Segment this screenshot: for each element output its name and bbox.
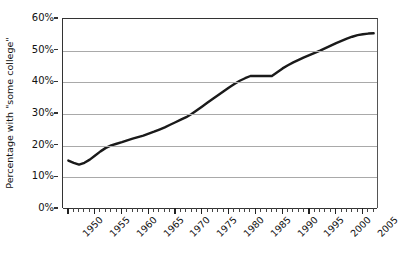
y-tick-label-10%: 10% — [18, 170, 54, 181]
x-tick-1979 — [223, 208, 224, 212]
x-tick-label-1980: 1980 — [241, 214, 266, 239]
x-axis-tick-labels: 1950195519601965197019751980198519901995… — [62, 214, 378, 260]
x-tick-2004 — [357, 208, 358, 212]
x-tick-1991 — [287, 208, 288, 212]
x-tick-1974 — [196, 208, 197, 212]
x-tick-1983 — [244, 208, 245, 212]
x-tick-1992 — [292, 208, 293, 212]
y-tick-mark-60% — [54, 17, 58, 18]
x-tick-1967 — [158, 208, 159, 212]
x-tick-1993 — [298, 208, 299, 212]
x-tick-label-1965: 1965 — [161, 214, 186, 239]
x-tick-1968 — [164, 208, 165, 212]
y-axis-tick-labels: 0%10%20%30%40%50%60% — [20, 18, 58, 208]
x-tick-1957 — [105, 208, 106, 212]
x-tick-1997 — [319, 208, 320, 212]
gridline-10% — [63, 177, 377, 178]
x-tick-1989 — [276, 208, 277, 212]
y-tick-mark-10% — [54, 176, 58, 177]
x-tick-1998 — [324, 208, 325, 212]
x-tick-label-1995: 1995 — [321, 214, 346, 239]
y-axis-title-container: Percentage with "some college" — [2, 18, 16, 208]
x-tick-1969 — [169, 208, 170, 212]
gridline-30% — [63, 114, 377, 115]
x-tick-1964 — [142, 208, 143, 212]
x-tick-1988 — [271, 208, 272, 212]
y-tick-mark-30% — [54, 112, 58, 113]
x-tick-1961 — [126, 208, 127, 212]
x-tick-1987 — [266, 208, 267, 212]
y-tick-label-40%: 40% — [18, 75, 54, 86]
x-tick-1972 — [185, 208, 186, 212]
y-tick-label-60%: 60% — [18, 12, 54, 23]
x-tick-1951 — [73, 208, 74, 212]
x-tick-label-1960: 1960 — [134, 214, 159, 239]
x-tick-2002 — [346, 208, 347, 212]
x-tick-1962 — [132, 208, 133, 212]
plot-area — [62, 18, 378, 208]
y-axis-title: Percentage with "some college" — [4, 37, 15, 188]
x-tick-label-1970: 1970 — [188, 214, 213, 239]
x-tick-1959 — [116, 208, 117, 212]
y-tick-label-20%: 20% — [18, 139, 54, 150]
x-tick-1984 — [249, 208, 250, 212]
y-tick-mark-40% — [54, 81, 58, 82]
x-tick-1999 — [330, 208, 331, 212]
x-tick-1953 — [83, 208, 84, 212]
y-tick-label-30%: 30% — [18, 107, 54, 118]
y-tick-mark-50% — [54, 49, 58, 50]
x-tick-1973 — [191, 208, 192, 212]
x-tick-label-2000: 2000 — [348, 214, 373, 239]
x-tick-1966 — [153, 208, 154, 212]
x-tick-2003 — [351, 208, 352, 212]
gridline-50% — [63, 51, 377, 52]
x-tick-1971 — [180, 208, 181, 212]
x-tick-1981 — [233, 208, 234, 212]
x-tick-label-1975: 1975 — [214, 214, 239, 239]
x-tick-label-1985: 1985 — [268, 214, 293, 239]
x-tick-2007 — [373, 208, 374, 212]
x-tick-label-1955: 1955 — [107, 214, 132, 239]
x-tick-1976 — [207, 208, 208, 212]
x-tick-label-2005: 2005 — [375, 214, 400, 239]
x-tick-1977 — [212, 208, 213, 212]
x-tick-1958 — [110, 208, 111, 212]
x-tick-label-1990: 1990 — [295, 214, 320, 239]
x-tick-1956 — [99, 208, 100, 212]
gridline-40% — [63, 82, 377, 83]
x-tick-1986 — [260, 208, 261, 212]
y-tick-mark-0% — [54, 207, 58, 208]
x-tick-1954 — [89, 208, 90, 212]
y-tick-label-50%: 50% — [18, 44, 54, 55]
x-tick-1994 — [303, 208, 304, 212]
y-tick-mark-20% — [54, 144, 58, 145]
x-tick-1996 — [314, 208, 315, 212]
y-tick-label-0%: 0% — [18, 202, 54, 213]
x-tick-1978 — [217, 208, 218, 212]
gridline-20% — [63, 146, 377, 147]
x-tick-1963 — [137, 208, 138, 212]
x-tick-2001 — [341, 208, 342, 212]
x-tick-2006 — [367, 208, 368, 212]
x-tick-1952 — [78, 208, 79, 212]
x-tick-1982 — [239, 208, 240, 212]
x-tick-label-1950: 1950 — [80, 214, 105, 239]
